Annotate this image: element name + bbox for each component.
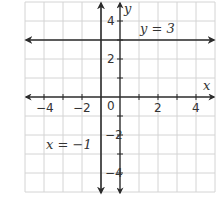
line-y3-label: y = 3 <box>139 21 175 36</box>
tick-x-m4: −4 <box>36 101 54 115</box>
tick-y-2: 2 <box>107 52 115 66</box>
tick-y-m4: −4 <box>105 166 123 180</box>
tick-x-m2: −2 <box>73 101 91 115</box>
tick-y-m2: −2 <box>105 128 123 142</box>
origin-label: 0 <box>107 99 115 113</box>
line-xm1-label: x = −1 <box>46 137 92 152</box>
y-axis-label: y <box>123 1 132 16</box>
tick-x-4: 4 <box>192 101 200 115</box>
tick-x-2: 2 <box>154 101 162 115</box>
tick-y-4: 4 <box>107 14 115 28</box>
x-axis-label: x <box>203 78 211 93</box>
coordinate-plane: −4 −2 0 2 4 4 2 −2 −4 x y y = 3 x = −1 <box>0 0 219 220</box>
